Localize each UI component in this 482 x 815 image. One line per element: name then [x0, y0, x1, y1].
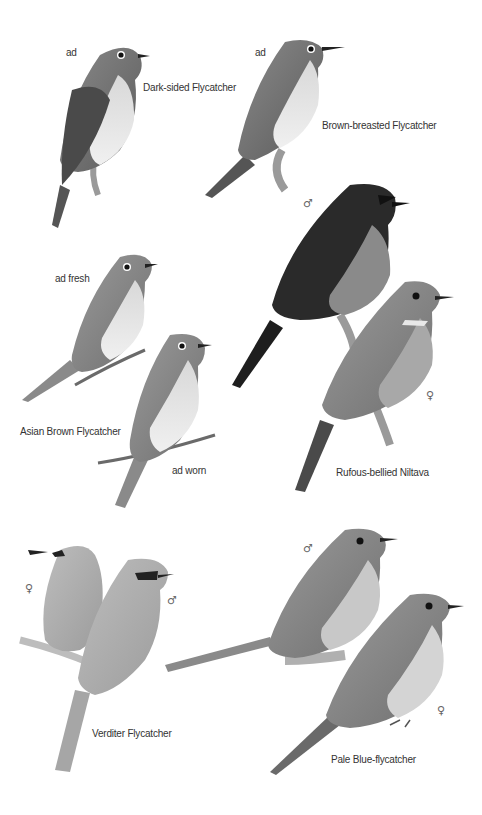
female-symbol: ♀	[426, 389, 434, 402]
male-symbol: ♂	[303, 542, 313, 555]
age-label: ad	[255, 47, 266, 58]
female-symbol: ♀	[437, 704, 445, 717]
species-name-label: Brown-breasted Flycatcher	[322, 120, 437, 131]
species-name-label: Verditer Flycatcher	[92, 728, 172, 739]
male-symbol: ♂	[303, 197, 313, 210]
age-label: ad fresh	[55, 273, 90, 284]
age-label: ad worn	[172, 465, 206, 476]
asian-brown-flycatcher-fresh-figure	[22, 255, 158, 402]
age-label: ad	[66, 47, 77, 58]
asian-brown-flycatcher-worn-figure	[98, 334, 215, 508]
female-symbol: ♀	[25, 582, 33, 595]
species-name-label: Dark-sided Flycatcher	[143, 82, 236, 93]
brown-breasted-flycatcher-figure	[205, 40, 345, 198]
species-name-label: Rufous-bellied Niltava	[336, 467, 429, 478]
species-name-label: Pale Blue-flycatcher	[331, 754, 416, 765]
bird-plate: ad Dark-sided Flycatcher ad Brown-breast…	[0, 0, 482, 815]
species-name-label: Asian Brown Flycatcher	[20, 426, 121, 437]
male-symbol: ♂	[167, 594, 177, 607]
dark-sided-flycatcher-figure	[52, 48, 150, 228]
